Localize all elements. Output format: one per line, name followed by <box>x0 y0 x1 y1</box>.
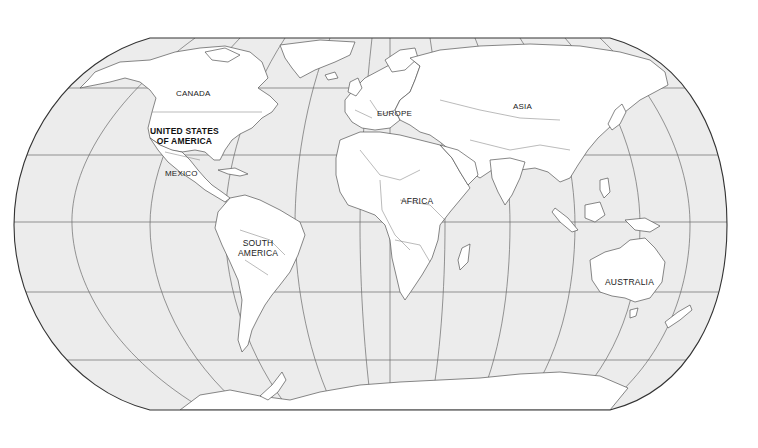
label-south-america-line2: AMERICA <box>238 249 278 259</box>
label-asia: ASIA <box>513 102 532 111</box>
label-usa: UNITED STATES OF AMERICA <box>150 127 219 147</box>
label-south-america: SOUTH AMERICA <box>238 239 278 259</box>
label-mexico: MEXICO <box>165 169 198 178</box>
map-canvas <box>0 0 758 448</box>
label-canada: CANADA <box>176 89 211 98</box>
label-europe: EUROPE <box>377 109 412 118</box>
label-africa: AFRICA <box>401 197 433 207</box>
label-usa-line2: OF AMERICA <box>150 137 219 147</box>
label-australia: AUSTRALIA <box>605 278 654 288</box>
world-map: CANADA UNITED STATES OF AMERICA MEXICO S… <box>0 0 758 448</box>
